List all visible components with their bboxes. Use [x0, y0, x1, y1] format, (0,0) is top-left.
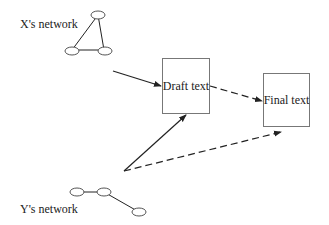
- arrow-x-to-draft: [113, 71, 161, 86]
- diagram-canvas: X's network Y's network Draft text Final…: [0, 0, 329, 225]
- y-node-1: [70, 188, 84, 196]
- x-network-label: X's network: [20, 18, 78, 30]
- final-text-label: Final text: [264, 93, 310, 108]
- x-node-left: [65, 47, 79, 55]
- y-node-2: [97, 188, 111, 196]
- arrow-y-to-final: [124, 132, 281, 171]
- arrow-draft-to-final: [210, 86, 262, 101]
- y-node-3: [132, 208, 146, 216]
- x-node-top: [91, 11, 105, 19]
- final-text-box: Final text: [263, 73, 310, 127]
- y-network-label: Y's network: [20, 203, 78, 215]
- y-network-graph: [70, 188, 146, 216]
- x-node-right: [98, 47, 112, 55]
- draft-text-label: Draft text: [163, 79, 209, 94]
- arrow-y-to-draft: [124, 115, 186, 171]
- draft-text-box: Draft text: [162, 58, 210, 114]
